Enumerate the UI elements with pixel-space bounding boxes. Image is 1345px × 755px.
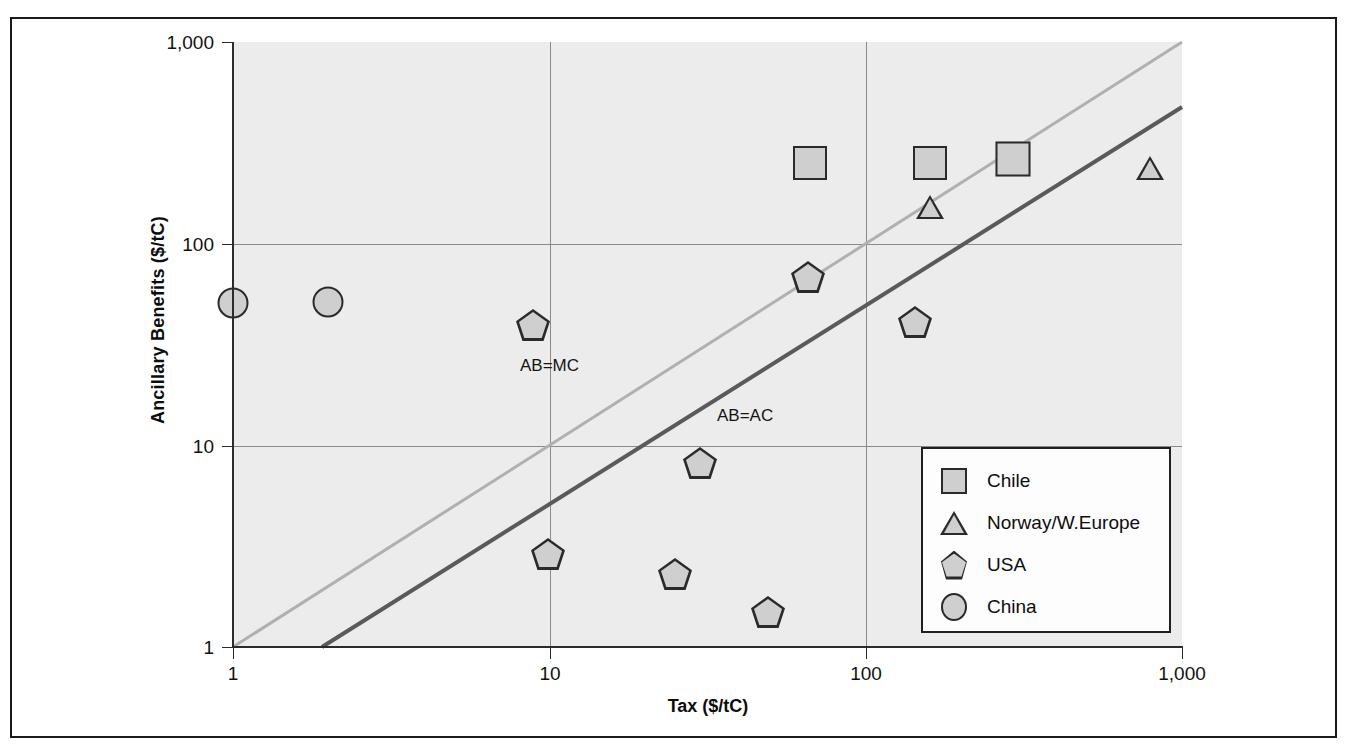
circle-marker-icon bbox=[941, 593, 967, 621]
legend-label-norway: Norway/W.Europe bbox=[987, 512, 1140, 534]
y-tick-100 bbox=[222, 244, 233, 245]
pentagon-marker-icon bbox=[941, 551, 967, 580]
y-tick-label-1: 1 bbox=[104, 638, 214, 657]
y-axis-line bbox=[232, 42, 234, 648]
plot-area: AB=MC AB=AC Chile bbox=[233, 42, 1182, 647]
y-tick-label-100: 100 bbox=[104, 235, 214, 254]
legend-item-norway[interactable]: Norway/W.Europe bbox=[941, 505, 1140, 541]
x-tick-100 bbox=[866, 648, 867, 659]
x-tick-10 bbox=[550, 648, 551, 659]
y-tick-label-1000: 1,000 bbox=[104, 33, 214, 52]
y-tick-1000 bbox=[222, 42, 233, 43]
x-tick-label-1: 1 bbox=[173, 664, 293, 683]
x-axis-line bbox=[232, 646, 1183, 648]
legend-item-chile[interactable]: Chile bbox=[941, 463, 1030, 499]
annotation-ab-mc: AB=MC bbox=[520, 356, 579, 376]
x-tick-1000 bbox=[1182, 648, 1183, 659]
y-tick-label-10: 10 bbox=[104, 437, 214, 456]
y-tick-1 bbox=[222, 647, 233, 648]
data-point-chile-3[interactable] bbox=[996, 142, 1031, 177]
legend-label-china: China bbox=[987, 596, 1037, 618]
square-marker-icon bbox=[941, 468, 967, 494]
x-tick-label-10: 10 bbox=[490, 664, 610, 683]
data-point-chile-2[interactable] bbox=[913, 146, 947, 180]
data-point-china-2[interactable] bbox=[313, 287, 344, 318]
x-axis-title: Tax ($/tC) bbox=[608, 696, 808, 717]
data-point-chile-1[interactable] bbox=[793, 146, 827, 180]
y-axis-title: Ancillary Benefits ($/tC) bbox=[148, 170, 169, 470]
data-point-norway-2[interactable] bbox=[1136, 156, 1164, 180]
legend: Chile Norway/W.Europe USA bbox=[921, 447, 1171, 633]
y-tick-10 bbox=[222, 446, 233, 447]
triangle-marker-icon bbox=[941, 511, 967, 535]
x-tick-label-1000: 1,000 bbox=[1122, 664, 1242, 683]
legend-label-usa: USA bbox=[987, 554, 1026, 576]
legend-item-usa[interactable]: USA bbox=[941, 547, 1026, 583]
x-tick-1 bbox=[233, 648, 234, 659]
legend-label-chile: Chile bbox=[987, 470, 1030, 492]
chart-canvas: Ancillary Benefits ($/tC) Tax ($/tC) AB=… bbox=[0, 0, 1345, 755]
legend-item-china[interactable]: China bbox=[941, 589, 1037, 625]
data-point-norway-1[interactable] bbox=[916, 195, 944, 219]
annotation-ab-ac: AB=AC bbox=[717, 406, 773, 426]
x-tick-label-100: 100 bbox=[806, 664, 926, 683]
